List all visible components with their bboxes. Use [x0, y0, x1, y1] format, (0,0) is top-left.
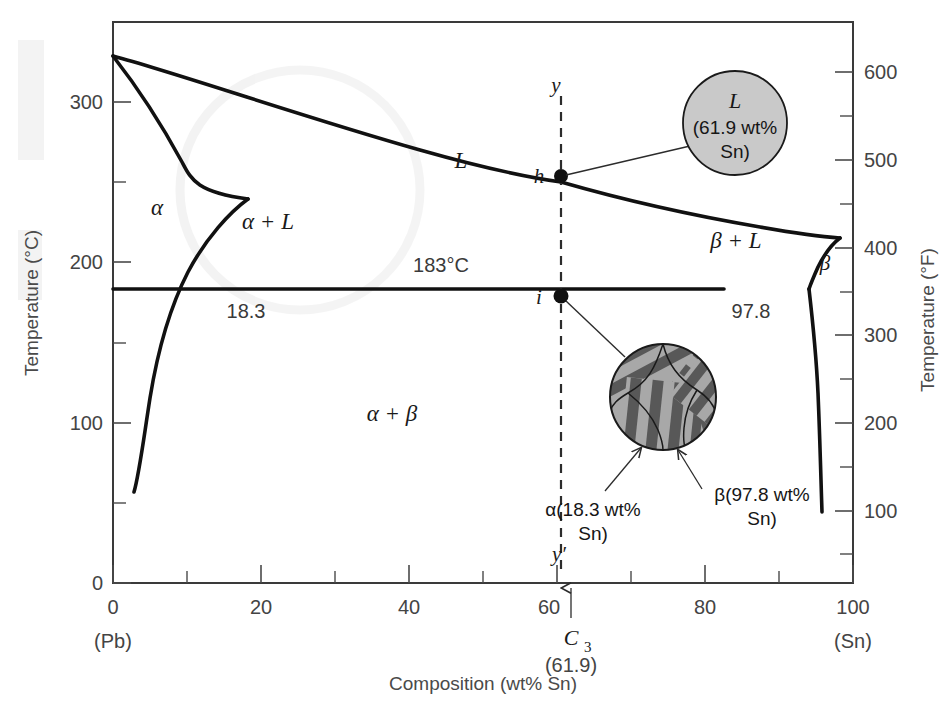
right-tick-label-500: 500	[864, 149, 897, 171]
right-axis-title: Temperature (°F)	[917, 248, 938, 392]
x-axis-title: Composition (wt% Sn)	[389, 673, 577, 694]
region-label-alpha-plus-beta: α + β	[367, 401, 418, 426]
beta-callout-line-2: Sn)	[747, 508, 777, 529]
point-h-marker	[554, 169, 568, 183]
region-label-liquid: L	[454, 148, 468, 173]
region-label-beta: β	[819, 251, 831, 275]
alpha-callout-line-2: Sn)	[578, 523, 608, 544]
canvas-background	[0, 0, 951, 712]
left-tick-label-100: 100	[70, 412, 103, 434]
c3-symbol: C	[564, 625, 579, 650]
annotation-eutectic-temp: 183°C	[413, 254, 469, 276]
left-tick-label-300: 300	[70, 91, 103, 113]
left-axis-title: Temperature (°C)	[21, 230, 42, 376]
x-tick-label-0: 0	[107, 596, 118, 618]
left-tick-label-0: 0	[92, 572, 103, 594]
line-top-label-y: y	[549, 73, 561, 97]
beta-callout-line-1: β(97.8 wt%	[714, 484, 810, 505]
c3-value: (61.9)	[545, 654, 597, 676]
liquid-inset-line-2: (61.9 wt%	[693, 117, 778, 138]
c3-subscript: 3	[584, 639, 592, 655]
annotation-97-8: 97.8	[732, 300, 771, 322]
liquid-inset-line-3: Sn)	[720, 141, 750, 162]
right-tick-label-300: 300	[864, 324, 897, 346]
annotation-18-3: 18.3	[227, 300, 266, 322]
left-tick-label-200: 200	[70, 251, 103, 273]
phase-diagram-figure: 0 100 200 300 Temperature (°C) 100 200 3…	[0, 0, 951, 712]
x-tick-label-40: 40	[398, 596, 420, 618]
liquid-inset-line-1: L	[728, 88, 741, 113]
x-tick-label-20: 20	[250, 596, 272, 618]
phase-diagram-svg: 0 100 200 300 Temperature (°C) 100 200 3…	[0, 0, 951, 712]
region-label-beta-plus-liquid: β + L	[709, 228, 761, 253]
region-label-alpha-plus-liquid: α + L	[242, 209, 294, 234]
point-h-label: h	[534, 164, 545, 188]
right-tick-label-600: 600	[864, 61, 897, 83]
x-tick-label-80: 80	[694, 596, 716, 618]
right-tick-label-400: 400	[864, 237, 897, 259]
region-label-alpha: α	[151, 195, 164, 220]
right-tick-label-100: 100	[864, 500, 897, 522]
alpha-callout-line-1: α(18.3 wt%	[545, 499, 641, 520]
right-tick-label-200: 200	[864, 412, 897, 434]
x-endpoint-label-pb: (Pb)	[94, 630, 132, 652]
x-tick-label-100: 100	[836, 596, 869, 618]
line-bottom-label-yprime: y′	[550, 542, 566, 566]
x-endpoint-label-sn: (Sn)	[834, 630, 872, 652]
x-tick-label-60: 60	[538, 596, 560, 618]
point-i-label: i	[536, 285, 542, 309]
